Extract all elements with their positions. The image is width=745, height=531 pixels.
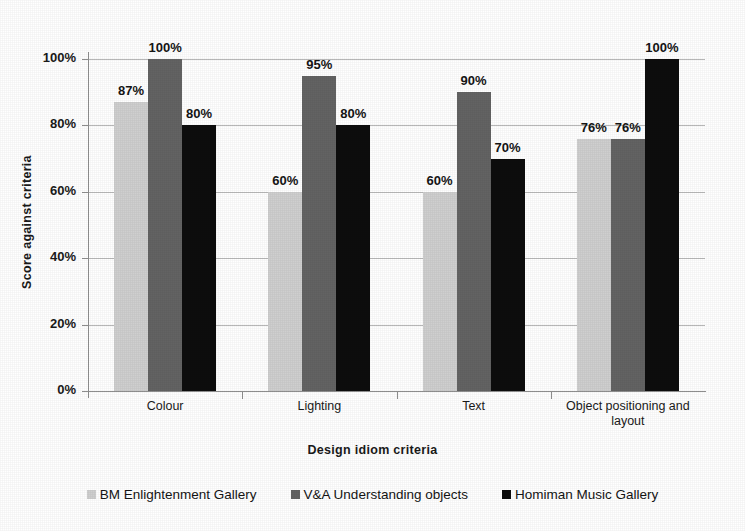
bar-chart: Score against criteria 0%20%40%60%80%100… bbox=[0, 0, 745, 531]
y-axis-tick-label: 0% bbox=[0, 382, 76, 397]
y-axis-tick-label: 100% bbox=[0, 50, 76, 65]
x-axis-category-label: Text bbox=[397, 399, 551, 414]
y-axis-tick bbox=[82, 192, 89, 193]
bar bbox=[302, 76, 336, 391]
legend-item[interactable]: Homiman Music Gallery bbox=[502, 487, 658, 502]
bar-value-label: 70% bbox=[482, 140, 534, 155]
x-axis-category-label: Colour bbox=[88, 399, 242, 414]
y-axis-tick bbox=[82, 125, 89, 126]
bar bbox=[491, 159, 525, 391]
y-axis-tick bbox=[82, 59, 89, 60]
bar bbox=[611, 139, 645, 391]
bar-value-label: 80% bbox=[173, 106, 225, 121]
y-axis-tick-label: 60% bbox=[0, 183, 76, 198]
bar-value-label: 95% bbox=[293, 57, 345, 72]
x-axis-category-label: Object positioning and layout bbox=[551, 399, 705, 429]
bar-value-label: 90% bbox=[448, 73, 500, 88]
bar bbox=[182, 125, 216, 391]
legend-label: Homiman Music Gallery bbox=[515, 487, 658, 502]
y-axis-tick bbox=[82, 258, 89, 259]
y-axis-title: Score against criteria bbox=[20, 137, 34, 307]
bar bbox=[114, 102, 148, 391]
bar-value-label: 100% bbox=[139, 40, 191, 55]
bar bbox=[457, 92, 491, 391]
y-axis-tick-label: 40% bbox=[0, 249, 76, 264]
legend-label: V&A Understanding objects bbox=[304, 487, 468, 502]
chart-legend: BM Enlightenment GalleryV&A Understandin… bbox=[0, 487, 745, 502]
y-axis-line bbox=[88, 52, 89, 398]
legend-swatch-icon bbox=[502, 490, 511, 499]
x-axis-category-label: Lighting bbox=[242, 399, 396, 414]
bar bbox=[268, 192, 302, 391]
bar bbox=[423, 192, 457, 391]
legend-item[interactable]: BM Enlightenment Gallery bbox=[87, 487, 257, 502]
bar bbox=[645, 59, 679, 391]
x-axis-tick bbox=[397, 392, 398, 399]
x-axis-tick bbox=[242, 392, 243, 399]
legend-swatch-icon bbox=[87, 490, 96, 499]
bar bbox=[577, 139, 611, 391]
bar-value-label: 80% bbox=[327, 106, 379, 121]
legend-item[interactable]: V&A Understanding objects bbox=[291, 487, 468, 502]
y-axis-tick bbox=[82, 325, 89, 326]
bar-value-label: 100% bbox=[636, 40, 688, 55]
legend-label: BM Enlightenment Gallery bbox=[100, 487, 257, 502]
y-axis-tick-label: 80% bbox=[0, 116, 76, 131]
legend-swatch-icon bbox=[291, 490, 300, 499]
y-axis-tick-label: 20% bbox=[0, 316, 76, 331]
x-axis-title: Design idiom criteria bbox=[0, 443, 745, 457]
x-axis-tick bbox=[551, 392, 552, 399]
bar bbox=[336, 125, 370, 391]
y-axis-tick bbox=[82, 391, 89, 392]
